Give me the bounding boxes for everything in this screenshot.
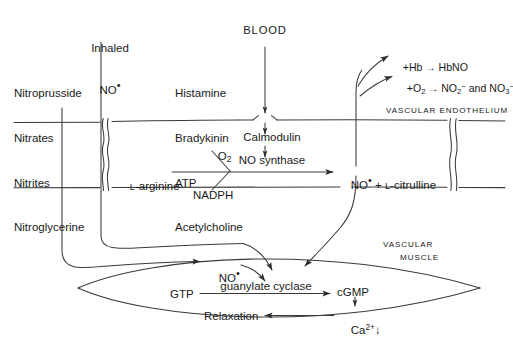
inhaled-no-label: Inhaled NO• bbox=[91, 13, 129, 125]
radical-dot-inhaled: • bbox=[117, 79, 121, 91]
product-cgmp: cGMP bbox=[337, 285, 369, 299]
nitrate-charge: − bbox=[509, 81, 513, 90]
inhaled-no-to-cyclase-arrow bbox=[243, 244, 272, 270]
cofactor-nadph: NADPH bbox=[193, 188, 233, 202]
membrane-channel-left-wavy bbox=[102, 119, 109, 191]
compartment-label-blood: BLOOD bbox=[243, 24, 287, 38]
oxygen-subscript: 2 bbox=[227, 155, 232, 164]
radical-dot-muscle: • bbox=[236, 267, 240, 279]
donor-nitroprusside: Nitroprusside bbox=[14, 86, 84, 101]
donor-nitroglycerine: Nitroglycerine bbox=[14, 220, 84, 235]
cofactor-oxygen: O2 bbox=[205, 135, 231, 177]
membrane-channel-right-wavy bbox=[450, 119, 458, 191]
no-signaling-pathway-diagram: Nitroprusside Nitrates Nitrites Nitrogly… bbox=[0, 0, 513, 361]
enzyme-guanylate-cyclase: guanylate cyclase bbox=[220, 279, 311, 293]
nitrate-donor-list: Nitroprusside Nitrates Nitrites Nitrogly… bbox=[14, 56, 84, 265]
blood-fate-oxidation: +O2 → NO2− and NO3− bbox=[395, 69, 513, 108]
donor-nitrites: Nitrites bbox=[14, 176, 84, 191]
calcium-charge-superscript: 2+ bbox=[365, 323, 374, 332]
regulator-calmodulin: Calmodulin bbox=[243, 130, 301, 144]
outcome-relaxation: Relaxation bbox=[204, 309, 258, 323]
agonist-histamine: Histamine bbox=[175, 86, 243, 101]
substrate-l-arginine: L-arginine bbox=[117, 165, 180, 207]
inhaled-no-line1: Inhaled bbox=[91, 41, 129, 55]
calcium-decrease-label: Ca2+↓ bbox=[338, 309, 381, 351]
enzyme-no-synthase: NO synthase bbox=[239, 153, 305, 167]
compartment-label-muscle-line1: VASCULAR bbox=[383, 240, 433, 250]
substrate-gtp: GTP bbox=[170, 287, 194, 301]
reaction-arrow-glyph-ox: → bbox=[425, 83, 441, 94]
compartment-label-endothelium: VASCULAR ENDOTHELIUM bbox=[386, 106, 508, 116]
endothelium-upper-membrane bbox=[14, 116, 505, 123]
inhaled-no-line2: NO• bbox=[91, 83, 129, 97]
product-no-and-citrulline: NO• + L-citrulline bbox=[338, 164, 436, 206]
agonist-acetylcholine: Acetylcholine bbox=[175, 220, 243, 235]
compartment-label-muscle-line2: MUSCLE bbox=[400, 253, 439, 263]
donor-nitrates: Nitrates bbox=[14, 131, 84, 146]
calcium-decrease-arrow-glyph: ↓ bbox=[375, 324, 381, 336]
